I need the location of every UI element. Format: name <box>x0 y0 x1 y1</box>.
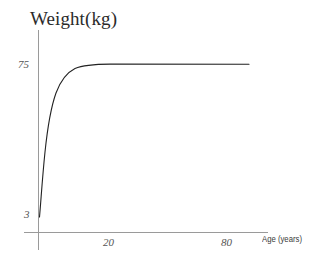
weight-growth-curve <box>40 64 250 217</box>
x-tick-label-80: 80 <box>221 236 232 248</box>
growth-curve-chart: Weight(kg) 75 3 20 80 Age (years) <box>0 0 328 268</box>
x-axis-title: Age (years) <box>262 234 302 244</box>
x-tick-label-20: 20 <box>103 236 114 248</box>
y-tick-label-75: 75 <box>18 58 29 70</box>
y-tick-label-3: 3 <box>24 208 30 220</box>
plot-area <box>0 0 328 268</box>
